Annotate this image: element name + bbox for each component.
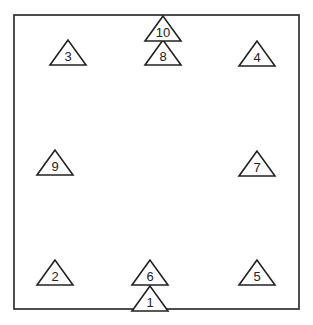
triangle-label: 5 [253, 269, 260, 284]
triangle-marker-9: 9 [37, 150, 73, 175]
triangle-marker-8: 8 [145, 40, 181, 65]
triangle-marker-10: 10 [145, 16, 181, 41]
triangle-marker-7: 7 [239, 151, 275, 176]
triangle-marker-4: 4 [239, 41, 275, 66]
triangle-marker-5: 5 [239, 260, 275, 285]
triangle-label: 10 [156, 25, 170, 40]
triangle-label: 2 [51, 269, 58, 284]
triangle-label: 8 [159, 49, 166, 64]
triangle-markers: 12345678910 [37, 16, 275, 311]
triangle-label: 7 [253, 160, 260, 175]
triangle-label: 6 [146, 269, 153, 284]
triangle-marker-2: 2 [37, 260, 73, 285]
diagram-canvas: 12345678910 [0, 0, 313, 325]
triangle-label: 3 [64, 49, 71, 64]
triangle-marker-6: 6 [132, 260, 168, 285]
triangle-marker-1: 1 [132, 286, 168, 311]
triangle-label: 9 [51, 159, 58, 174]
triangle-label: 4 [253, 50, 260, 65]
triangle-label: 1 [146, 295, 153, 310]
triangle-marker-3: 3 [50, 40, 86, 65]
